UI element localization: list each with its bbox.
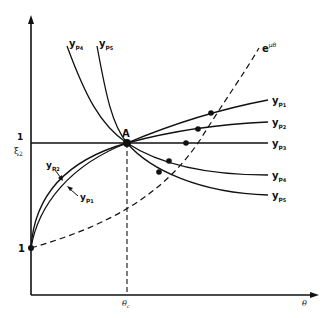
label-exp: eμθ [262, 41, 277, 54]
intersection-yp3-dot [183, 140, 189, 146]
label-yp5-right: yp5 [272, 190, 287, 203]
label-yp3-right: yp3 [272, 138, 287, 151]
y-axis-arrow-icon [28, 15, 34, 24]
intersection-yp1-dot [208, 110, 214, 116]
x-axis-arrow-icon [310, 292, 319, 298]
intersection-yp4-dot [166, 158, 172, 164]
label-theta: θ [302, 299, 307, 308]
label-yp1-right: yp1 [272, 95, 287, 108]
curve-exp-mu-theta [31, 48, 259, 248]
label-yp4-top: yp4 [69, 38, 84, 51]
label-yp2-right: yp2 [272, 117, 287, 130]
label-theta-c: θc [122, 299, 130, 309]
label-yp2-left: yp2 [46, 160, 60, 172]
point-A-dot [123, 139, 131, 147]
label-yp1-left: yp1 [80, 192, 94, 204]
curve-yp5 [97, 46, 268, 195]
label-yp5-top: yp5 [99, 38, 114, 51]
intersection-yp2-dot [195, 126, 201, 132]
curve-yp4 [67, 46, 268, 175]
label-frac-num: 1 [17, 132, 23, 142]
intersection-yp5-dot [156, 169, 162, 175]
label-yp4-right: yp4 [272, 170, 287, 183]
label-y-one: 1 [18, 243, 25, 254]
start-point-dot [28, 245, 34, 251]
diagram-canvas: A 1 1 ξ2 θc θ eμθ yp1 yp2 yp3 yp4 yp5 yp… [0, 0, 329, 318]
curve-yp2 [31, 122, 268, 248]
label-A: A [122, 128, 130, 139]
yp1-pointer [70, 189, 78, 196]
label-frac-den: ξ2 [14, 146, 23, 157]
